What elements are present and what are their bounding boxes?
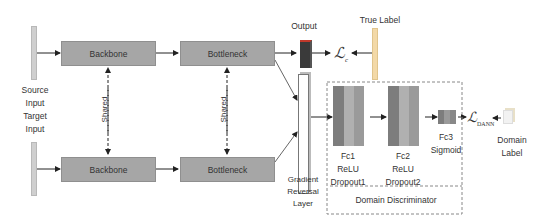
fc3-activation: Sigmoid: [426, 144, 466, 157]
loss-c-symbol: ℒ: [334, 45, 345, 61]
fc2-dropout: Dropout2: [383, 176, 423, 189]
grl-label: Gradient Reversal Layer: [280, 174, 326, 210]
fc3-label: Fc3 Sigmoid: [426, 131, 466, 157]
source-line2: Input: [14, 97, 56, 110]
source-input-bar: [31, 26, 37, 80]
loss-dann-symbol: ℒ: [467, 110, 477, 125]
target-line2: Input: [14, 123, 56, 136]
backbone-label: Backbone: [90, 165, 128, 175]
fc2-block: [388, 86, 419, 146]
backbone-target: Backbone: [61, 157, 156, 182]
domain-line2: Label: [490, 147, 534, 160]
domain-label-block: [503, 110, 513, 124]
backbone-source: Backbone: [61, 41, 156, 66]
loss-c: ℒc: [334, 44, 348, 64]
target-line1: Target: [14, 110, 56, 123]
fc1-dropout: Dropout1: [328, 176, 368, 189]
fc3-block: [438, 110, 456, 124]
output-block: [300, 40, 312, 68]
domain-line1: Domain: [490, 134, 534, 147]
shared-label-backbone: Shared: [98, 92, 111, 128]
bottleneck-label: Bottleneck: [208, 49, 248, 59]
output-label: Output: [286, 20, 322, 33]
domain-label-text: Domain Label: [490, 134, 534, 160]
connector-lines: [0, 0, 544, 223]
loss-dann-sub: DANN: [477, 121, 494, 127]
grl-line3: Layer: [280, 198, 326, 210]
fc1-activation: ReLU: [328, 163, 368, 176]
target-input-bar: [31, 142, 37, 196]
grl-line1: Gradient: [280, 174, 326, 186]
loss-dann: ℒDANN: [467, 109, 494, 127]
bottleneck-source: Bottleneck: [180, 41, 275, 66]
fc1-label: Fc1 ReLU Dropout1: [328, 150, 368, 189]
fc2-activation: ReLU: [383, 163, 423, 176]
shared-label-bottleneck: Shared: [217, 92, 230, 128]
bottleneck-target: Bottleneck: [180, 157, 275, 182]
true-label-bar: [372, 28, 378, 80]
source-input-label: Source Input: [14, 84, 56, 110]
target-input-label: Target Input: [14, 110, 56, 136]
backbone-label: Backbone: [90, 49, 128, 59]
fc1-block: [333, 86, 364, 146]
bottleneck-label: Bottleneck: [208, 165, 248, 175]
grl-line2: Reversal: [280, 186, 326, 198]
fc2-name: Fc2: [383, 150, 423, 163]
fc2-label: Fc2 ReLU Dropout2: [383, 150, 423, 189]
source-line1: Source: [14, 84, 56, 97]
loss-c-sub: c: [345, 56, 348, 64]
domain-discriminator-label: Domain Discriminator: [330, 194, 462, 207]
fc3-name: Fc3: [426, 131, 466, 144]
true-label-text: True Label: [355, 14, 405, 27]
fc1-name: Fc1: [328, 150, 368, 163]
